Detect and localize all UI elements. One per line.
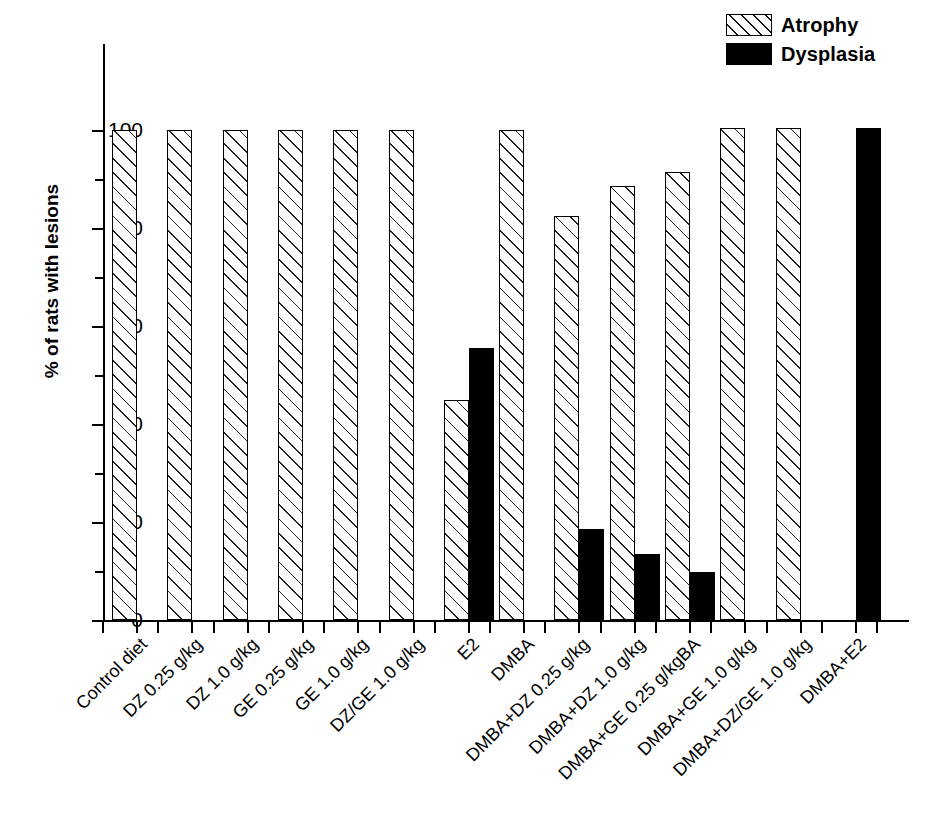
bar-atrophy bbox=[554, 216, 579, 620]
x-tick bbox=[744, 622, 746, 633]
x-axis-label: DMBA+GE 0.25 g/kgBA bbox=[478, 634, 705, 822]
x-tick bbox=[655, 622, 657, 633]
bar-atrophy bbox=[223, 130, 248, 620]
x-tick bbox=[247, 622, 249, 633]
x-tick bbox=[578, 622, 580, 633]
x-axis-label: DZ/GE 1.0 g/kg bbox=[201, 634, 428, 822]
x-tick bbox=[876, 622, 878, 633]
x-tick bbox=[191, 622, 193, 633]
x-tick bbox=[710, 622, 712, 633]
x-axis-label: DMBA bbox=[312, 634, 539, 822]
x-axis-label: E2 bbox=[257, 634, 484, 822]
x-axis-label: DMBA+DZ 1.0 g/kg bbox=[423, 634, 650, 822]
bar-atrophy bbox=[720, 128, 745, 620]
x-tick bbox=[213, 622, 215, 633]
bar-atrophy bbox=[389, 130, 414, 620]
x-axis-label: Control diet bbox=[0, 634, 152, 822]
x-axis-label: DMBA+E2 bbox=[644, 634, 871, 822]
x-tick bbox=[102, 622, 104, 633]
bar-atrophy bbox=[112, 130, 137, 620]
plot-area: 020406080100 bbox=[103, 44, 909, 622]
bar-atrophy bbox=[610, 186, 635, 620]
x-axis-label: GE 0.25 g/kg bbox=[91, 634, 318, 822]
x-tick bbox=[379, 622, 381, 633]
x-tick bbox=[523, 622, 525, 633]
x-tick bbox=[544, 622, 546, 633]
x-tick bbox=[489, 622, 491, 633]
x-axis-label: DZ 0.25 g/kg bbox=[0, 634, 207, 822]
bar-dysplasia bbox=[690, 572, 715, 620]
x-axis-label: DMBA+GE 1.0 g/kg bbox=[533, 634, 760, 822]
bar-atrophy bbox=[499, 130, 524, 620]
x-tick bbox=[136, 622, 138, 633]
x-tick bbox=[800, 622, 802, 633]
bar-atrophy bbox=[333, 130, 358, 620]
bar-atrophy bbox=[776, 128, 801, 620]
y-axis-title: % of rats with lesions bbox=[41, 151, 63, 411]
x-tick bbox=[468, 622, 470, 633]
bar-chart: Atrophy Dysplasia % of rats with lesions… bbox=[0, 0, 930, 822]
bar-atrophy bbox=[444, 400, 469, 621]
x-tick bbox=[634, 622, 636, 633]
legend-swatch-hatch-icon bbox=[726, 14, 772, 36]
bar-dysplasia bbox=[579, 529, 604, 620]
x-axis-label: DZ 1.0 g/kg bbox=[35, 634, 262, 822]
bar-dysplasia bbox=[469, 348, 494, 620]
x-tick bbox=[413, 622, 415, 633]
bar-dysplasia bbox=[856, 128, 881, 620]
x-tick bbox=[268, 622, 270, 633]
bar-atrophy bbox=[278, 130, 303, 620]
x-tick bbox=[821, 622, 823, 633]
x-axis-label: DMBA+DZ 0.25 g/kg bbox=[367, 634, 594, 822]
x-tick bbox=[302, 622, 304, 633]
legend-label-atrophy: Atrophy bbox=[781, 14, 858, 37]
legend-item-atrophy: Atrophy bbox=[726, 14, 875, 36]
x-axis-line bbox=[103, 620, 909, 622]
x-tick bbox=[157, 622, 159, 633]
x-tick bbox=[689, 622, 691, 633]
x-tick bbox=[434, 622, 436, 633]
x-tick bbox=[357, 622, 359, 633]
bar-atrophy bbox=[167, 130, 192, 620]
x-axis-label: GE 1.0 g/kg bbox=[146, 634, 373, 822]
bar-atrophy bbox=[665, 172, 690, 620]
x-tick bbox=[766, 622, 768, 633]
x-tick bbox=[323, 622, 325, 633]
bar-dysplasia bbox=[635, 554, 660, 620]
x-axis-label: DMBA+DZ/GE 1.0 g/kg bbox=[588, 634, 815, 822]
x-tick bbox=[600, 622, 602, 633]
x-tick bbox=[855, 622, 857, 633]
